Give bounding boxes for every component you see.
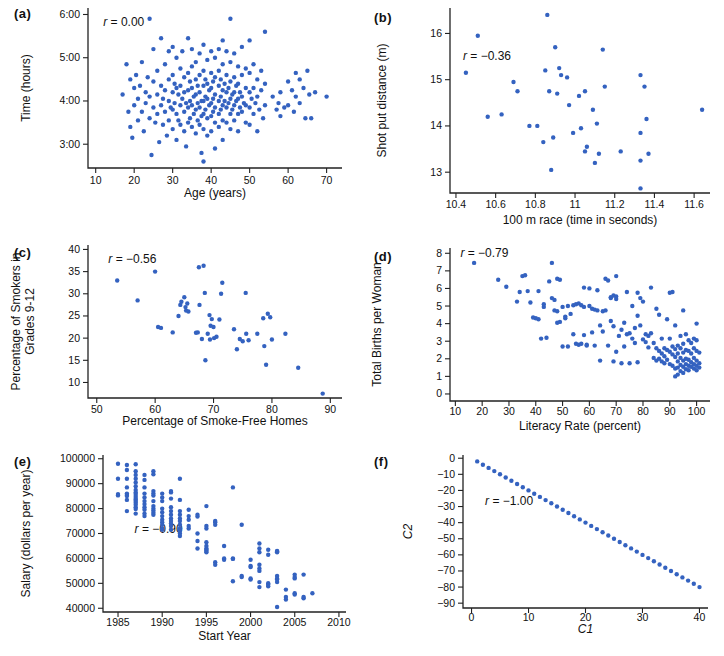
- svg-text:Percentage of Smoke-Free Homes: Percentage of Smoke-Free Homes: [122, 414, 307, 428]
- svg-text:60: 60: [584, 405, 596, 417]
- panel-b: (b) 10.410.610.81111.211.411.61314151610…: [362, 0, 724, 225]
- svg-text:−50: −50: [437, 532, 455, 544]
- svg-text:50: 50: [244, 174, 256, 186]
- svg-text:100000: 100000: [60, 452, 95, 464]
- svg-text:30: 30: [503, 405, 515, 417]
- svg-text:70000: 70000: [66, 527, 95, 539]
- svg-text:r = 0.00: r = 0.00: [103, 15, 144, 29]
- svg-text:Total Births per Woman: Total Births per Woman: [370, 262, 384, 387]
- svg-text:100: 100: [688, 405, 706, 417]
- svg-text:10: 10: [523, 611, 535, 623]
- svg-text:10: 10: [90, 174, 102, 186]
- svg-text:7: 7: [436, 264, 442, 276]
- svg-text:2: 2: [436, 352, 442, 364]
- panel-a-chart: 102030405060703:004:005:006:00Age (years…: [0, 0, 362, 225]
- svg-text:3: 3: [436, 335, 442, 347]
- svg-text:1990: 1990: [151, 616, 175, 628]
- svg-text:1: 1: [436, 370, 442, 382]
- svg-text:r = −0.56: r = −0.56: [108, 252, 156, 266]
- svg-text:30: 30: [167, 174, 179, 186]
- svg-text:50: 50: [91, 403, 103, 415]
- svg-text:6:00: 6:00: [60, 8, 81, 20]
- svg-text:1995: 1995: [195, 616, 219, 628]
- svg-text:5: 5: [436, 300, 442, 312]
- svg-text:−70: −70: [437, 564, 455, 576]
- svg-text:50000: 50000: [66, 577, 95, 589]
- panel-c-chart: 506070809010152025303540Percentage of Sm…: [0, 225, 362, 450]
- svg-text:16: 16: [430, 27, 442, 39]
- svg-text:Percentage of Smokers in: Percentage of Smokers in: [9, 252, 23, 390]
- svg-text:30: 30: [68, 287, 80, 299]
- svg-text:70: 70: [610, 405, 622, 417]
- svg-text:−80: −80: [437, 581, 455, 593]
- svg-text:30: 30: [637, 611, 649, 623]
- svg-text:10.6: 10.6: [485, 198, 506, 210]
- panel-f-chart: 0102030400−10−20−30−40−50−60−70−80−90C1C…: [362, 450, 724, 656]
- svg-text:−40: −40: [437, 516, 455, 528]
- svg-text:r = −0.79: r = −0.79: [460, 246, 508, 260]
- svg-text:80000: 80000: [66, 502, 95, 514]
- svg-text:11.6: 11.6: [684, 198, 704, 210]
- svg-text:10: 10: [450, 405, 462, 417]
- svg-text:4:00: 4:00: [60, 94, 81, 106]
- svg-text:Start Year: Start Year: [198, 629, 251, 643]
- svg-text:−60: −60: [437, 548, 455, 560]
- svg-text:15: 15: [68, 354, 80, 366]
- svg-text:70: 70: [321, 174, 333, 186]
- svg-text:6: 6: [436, 282, 442, 294]
- svg-text:−10: −10: [437, 468, 455, 480]
- svg-text:11.4: 11.4: [645, 198, 665, 210]
- svg-text:10.4: 10.4: [446, 198, 467, 210]
- svg-text:−20: −20: [437, 484, 455, 496]
- svg-text:80: 80: [637, 405, 649, 417]
- svg-text:40: 40: [205, 174, 217, 186]
- svg-text:35: 35: [68, 265, 80, 277]
- svg-text:20: 20: [68, 332, 80, 344]
- panel-a: (a) 102030405060703:004:005:006:00Age (y…: [0, 0, 362, 225]
- svg-text:Salary (dollars per year): Salary (dollars per year): [19, 469, 33, 597]
- scatterplot-figure: (a) 102030405060703:004:005:006:00Age (y…: [0, 0, 724, 656]
- svg-text:0: 0: [469, 611, 475, 623]
- svg-text:2000: 2000: [239, 616, 263, 628]
- svg-text:40: 40: [694, 611, 706, 623]
- svg-text:10: 10: [68, 376, 80, 388]
- svg-text:11: 11: [570, 198, 581, 210]
- svg-text:60000: 60000: [66, 552, 95, 564]
- svg-text:8: 8: [436, 247, 442, 259]
- svg-text:3:00: 3:00: [60, 138, 81, 150]
- svg-text:Grades 9-12: Grades 9-12: [23, 288, 37, 355]
- svg-text:2010: 2010: [327, 616, 351, 628]
- svg-text:0: 0: [436, 387, 442, 399]
- svg-text:20: 20: [128, 174, 140, 186]
- svg-text:Shot put distance (m): Shot put distance (m): [375, 43, 389, 157]
- svg-text:25: 25: [68, 309, 80, 321]
- svg-text:40: 40: [68, 243, 80, 255]
- svg-text:15: 15: [430, 73, 442, 85]
- panel-e: (e) 198519901995200020052010400005000060…: [0, 450, 362, 656]
- svg-text:r = −0.36: r = −0.36: [463, 49, 511, 63]
- svg-text:Age (years): Age (years): [184, 186, 246, 200]
- svg-text:r = −0.90: r = −0.90: [135, 522, 183, 536]
- svg-text:90: 90: [324, 403, 336, 415]
- panel-d: (d) 102030405060708090100012345678Litera…: [362, 225, 724, 456]
- svg-text:C1: C1: [578, 622, 593, 636]
- svg-text:10.8: 10.8: [525, 198, 546, 210]
- svg-text:2005: 2005: [283, 616, 307, 628]
- svg-text:5:00: 5:00: [60, 51, 81, 63]
- panel-b-chart: 10.410.610.81111.211.411.613141516100 m …: [362, 0, 724, 225]
- svg-text:60: 60: [282, 174, 294, 186]
- svg-text:−30: −30: [437, 500, 455, 512]
- svg-text:90: 90: [664, 405, 676, 417]
- panel-e-chart: 1985199019952000200520104000050000600007…: [0, 450, 362, 656]
- svg-text:4: 4: [436, 317, 442, 329]
- svg-text:11.2: 11.2: [605, 198, 625, 210]
- svg-text:−90: −90: [437, 597, 455, 609]
- svg-text:50: 50: [557, 405, 569, 417]
- svg-text:C2: C2: [401, 524, 415, 540]
- svg-text:0: 0: [449, 452, 455, 464]
- panel-c: (c) 506070809010152025303540Percentage o…: [0, 225, 362, 450]
- svg-text:90000: 90000: [66, 477, 95, 489]
- svg-text:Time (hours): Time (hours): [19, 54, 33, 122]
- panel-d-chart: 102030405060708090100012345678Literacy R…: [362, 225, 724, 456]
- svg-text:20: 20: [476, 405, 488, 417]
